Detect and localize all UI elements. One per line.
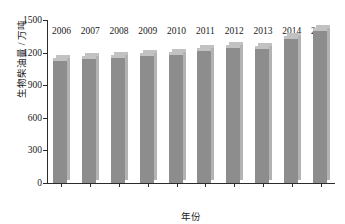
bar-top — [82, 56, 96, 59]
bar-face — [197, 48, 211, 183]
bar-top — [140, 53, 154, 56]
x-tick-label: 2013 — [254, 26, 273, 36]
bar-top-bevel — [316, 25, 330, 28]
x-tick-label: 2008 — [110, 26, 129, 36]
bar-top-bevel — [56, 55, 70, 58]
x-axis-title: 年份 — [47, 209, 335, 223]
bar — [111, 55, 125, 183]
x-tick-mark — [90, 183, 91, 187]
bar — [284, 36, 298, 183]
bar-face — [169, 52, 183, 183]
y-tick-mark — [43, 85, 47, 86]
bar-top — [284, 36, 298, 39]
y-tick-mark — [43, 53, 47, 54]
bar-face — [226, 45, 240, 183]
bar-top — [313, 28, 327, 31]
x-tick-mark — [205, 183, 206, 187]
bar-top-bevel — [172, 49, 186, 52]
bar-side — [327, 25, 330, 180]
x-tick-mark — [177, 183, 178, 187]
x-tick-label: 2009 — [138, 26, 157, 36]
bar-chart: 生物柴油量 / 万吨 030060090012001500 2006200720… — [0, 0, 345, 224]
y-tick-mark — [43, 183, 47, 184]
bar — [53, 58, 67, 183]
plot-area: 030060090012001500 200620072008200920102… — [47, 20, 335, 183]
x-tick-label: 2010 — [167, 26, 186, 36]
bar-top-bevel — [229, 42, 243, 45]
x-tick-label: 2007 — [81, 26, 100, 36]
bar-top — [169, 52, 183, 55]
bar-face — [284, 36, 298, 183]
bar — [169, 52, 183, 183]
x-tick-label: 2012 — [225, 26, 244, 36]
bar-top-bevel — [85, 53, 99, 56]
y-tick-label: 900 — [28, 80, 42, 90]
bar-top — [53, 58, 67, 61]
x-tick-mark — [148, 183, 149, 187]
bar — [197, 48, 211, 183]
bar-top — [197, 48, 211, 51]
x-tick-mark — [263, 183, 264, 187]
x-tick-label: 2011 — [196, 26, 215, 36]
bar-top — [111, 55, 125, 58]
y-tick-label: 1500 — [23, 15, 42, 25]
bar-top-bevel — [258, 43, 272, 46]
x-tick-mark — [119, 183, 120, 187]
bar-side — [183, 49, 186, 180]
bar — [255, 46, 269, 183]
bar — [313, 28, 327, 183]
bar-side — [269, 43, 272, 180]
y-tick-label: 300 — [28, 145, 42, 155]
bar-face — [313, 28, 327, 183]
y-tick-mark — [43, 150, 47, 151]
x-tick-mark — [292, 183, 293, 187]
bar-top-bevel — [200, 45, 214, 48]
y-tick-label: 0 — [37, 178, 42, 188]
bar-face — [255, 46, 269, 183]
bar-top — [255, 46, 269, 49]
bar-top-bevel — [114, 52, 128, 55]
y-tick-label: 600 — [28, 113, 42, 123]
bar-face — [53, 58, 67, 183]
y-tick-label: 1200 — [23, 48, 42, 58]
bar-face — [82, 56, 96, 183]
bar-side — [96, 53, 99, 180]
bar-top-bevel — [287, 33, 301, 36]
bar-side — [298, 33, 301, 180]
bar — [226, 45, 240, 183]
bar-side — [125, 52, 128, 180]
bar-face — [111, 55, 125, 183]
bar-side — [67, 55, 70, 180]
x-tick-mark — [61, 183, 62, 187]
bar — [82, 56, 96, 183]
x-tick-label: 2006 — [52, 26, 71, 36]
bar-top — [226, 45, 240, 48]
x-tick-mark — [321, 183, 322, 187]
y-axis-line — [47, 20, 48, 183]
y-tick-mark — [43, 20, 47, 21]
bar-top-bevel — [143, 50, 157, 53]
x-tick-mark — [234, 183, 235, 187]
bar-face — [140, 53, 154, 183]
bar-side — [154, 50, 157, 180]
bar-side — [240, 42, 243, 180]
bar-side — [211, 45, 214, 180]
y-tick-mark — [43, 118, 47, 119]
bar — [140, 53, 154, 183]
